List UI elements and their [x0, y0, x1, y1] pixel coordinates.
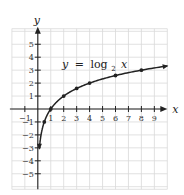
x-tick-label: 3	[74, 114, 79, 123]
y-tick-label: 2	[29, 79, 34, 88]
data-point	[49, 107, 53, 111]
x-tick-label: 5	[100, 114, 105, 123]
x-tick-label: 9	[152, 114, 157, 123]
y-axis-label: y	[33, 14, 41, 27]
data-point	[62, 94, 66, 98]
y-tick-label: 4	[29, 53, 34, 62]
y-tick-label: 5	[29, 40, 34, 49]
log-curve	[39, 66, 167, 148]
x-axis-arrow-icon	[160, 106, 167, 112]
x-tick-label: 4	[87, 114, 92, 123]
data-point	[140, 68, 144, 72]
x-axis-label: x	[172, 103, 179, 116]
data-point	[114, 74, 118, 78]
x-tick-label: 8	[139, 114, 144, 123]
y-tick-label: 3	[29, 66, 34, 75]
y-axis-arrow-icon	[35, 27, 41, 34]
y-tick-label: 1	[29, 92, 34, 101]
x-tick-label: 6	[113, 114, 118, 123]
y-tick-label: −2	[22, 131, 34, 140]
data-point	[75, 87, 79, 91]
x-tick-label: 2	[61, 114, 66, 123]
y-tick-label: −1	[22, 118, 34, 127]
y-tick-label: −5	[22, 170, 34, 179]
y-tick-label: −4	[22, 157, 34, 166]
function-label: y = log 2 x	[61, 58, 128, 74]
data-point	[42, 120, 46, 124]
x-tick-label: 7	[126, 114, 131, 123]
data-point	[88, 81, 92, 85]
axes: xy	[10, 14, 179, 190]
y-tick-label: −3	[22, 144, 34, 153]
x-tick-label: 1	[48, 114, 53, 123]
log2-chart: xy −1123456789−5−4−3−2−112345 y = log 2 …	[0, 0, 184, 195]
